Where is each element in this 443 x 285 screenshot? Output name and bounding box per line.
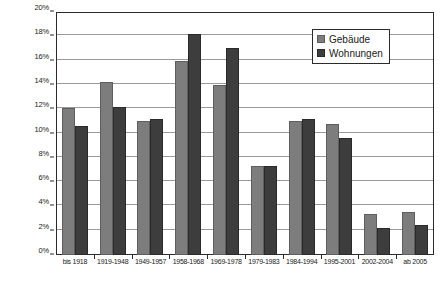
bar-gebaeude[interactable]	[62, 108, 75, 255]
x-axis-tick-mark	[245, 255, 246, 259]
x-axis-tick-mark	[283, 255, 284, 259]
x-axis-tick-mark	[207, 255, 208, 259]
bar-wohnungen[interactable]	[150, 119, 163, 255]
bar-wohnungen[interactable]	[377, 228, 390, 255]
wohnungen-swatch-icon	[317, 49, 325, 57]
x-axis-tick-label: 1995-2001	[321, 258, 359, 276]
bar-group	[94, 12, 132, 255]
y-axis-tick-label: 4%	[39, 197, 49, 206]
y-axis-tick-mark	[50, 132, 54, 133]
x-axis-tick-label: 1969-1978	[207, 258, 245, 276]
y-axis-tick-label: 18%	[35, 27, 49, 36]
legend-item-wohnungen[interactable]: Wohnungen	[317, 46, 383, 60]
bar-group	[169, 12, 207, 255]
bar-wohnungen[interactable]	[339, 138, 352, 255]
y-axis-tick-mark	[50, 181, 54, 182]
y-axis-tick-mark	[50, 156, 54, 157]
x-axis: bis 19181919-19481949-19571958-19681969-…	[56, 258, 434, 276]
y-axis-tick-mark	[50, 59, 54, 60]
y-axis-tick-mark	[50, 205, 54, 206]
x-axis-tick-mark	[94, 255, 95, 259]
bar-group	[396, 12, 434, 255]
bar-gebaeude[interactable]	[175, 61, 188, 255]
bar-wohnungen[interactable]	[302, 119, 315, 255]
x-axis-tick-label: 1919-1948	[94, 258, 132, 276]
y-axis-tick-label: 2%	[39, 221, 49, 230]
legend-label-wohnungen: Wohnungen	[329, 48, 383, 59]
y-axis-tick-label: 8%	[39, 148, 49, 157]
x-axis-tick-label: 2002-2004	[358, 258, 396, 276]
bar-group	[132, 12, 170, 255]
bar-gebaeude[interactable]	[402, 212, 415, 255]
x-axis-tick-mark	[396, 255, 397, 259]
x-axis-tick-mark	[358, 255, 359, 259]
y-axis-tick-label: 10%	[35, 124, 49, 133]
bar-wohnungen[interactable]	[75, 126, 88, 255]
y-axis-tick-mark	[50, 254, 54, 255]
bar-wohnungen[interactable]	[264, 166, 277, 255]
bar-gebaeude[interactable]	[326, 124, 339, 255]
x-axis-tick-label: 1979-1983	[245, 258, 283, 276]
bar-wohnungen[interactable]	[113, 107, 126, 255]
bar-group	[207, 12, 245, 255]
x-axis-tick-label: ab 2005	[396, 258, 434, 276]
x-axis-tick-label: 1949-1957	[132, 258, 170, 276]
bar-gebaeude[interactable]	[364, 214, 377, 255]
bar-chart: 0%2%4%6%8%10%12%14%16%18%20% bis 1918191…	[0, 0, 443, 285]
y-axis-tick-label: 16%	[35, 51, 49, 60]
chart-legend: Gebäude Wohnungen	[312, 29, 390, 64]
bar-gebaeude[interactable]	[137, 121, 150, 255]
x-axis-tick-label: 1958-1968	[169, 258, 207, 276]
x-axis-tick-mark	[169, 255, 170, 259]
y-axis-tick-label: 12%	[35, 100, 49, 109]
bar-group	[56, 12, 94, 255]
y-axis-tick-mark	[50, 11, 54, 12]
y-axis-tick-label: 20%	[35, 3, 49, 12]
y-axis-tick-mark	[50, 229, 54, 230]
legend-item-gebaeude[interactable]: Gebäude	[317, 32, 383, 46]
x-axis-tick-label: bis 1918	[56, 258, 94, 276]
y-axis-tick-mark	[50, 108, 54, 109]
y-axis-tick-mark	[50, 35, 54, 36]
x-axis-tick-mark	[132, 255, 133, 259]
bar-gebaeude[interactable]	[213, 85, 226, 255]
bar-wohnungen[interactable]	[415, 225, 428, 255]
bar-group	[245, 12, 283, 255]
bar-wohnungen[interactable]	[188, 34, 201, 255]
y-axis-tick-label: 0%	[39, 246, 49, 255]
bar-gebaeude[interactable]	[289, 121, 302, 255]
y-axis-tick-mark	[50, 83, 54, 84]
bar-wohnungen[interactable]	[226, 48, 239, 255]
gebaeude-swatch-icon	[317, 35, 325, 43]
x-axis-tick-label: 1984-1994	[283, 258, 321, 276]
legend-label-gebaeude: Gebäude	[329, 34, 370, 45]
bar-gebaeude[interactable]	[251, 166, 264, 255]
y-axis-tick-label: 6%	[39, 173, 49, 182]
x-axis-tick-mark	[321, 255, 322, 259]
y-axis: 0%2%4%6%8%10%12%14%16%18%20%	[0, 12, 54, 255]
bar-gebaeude[interactable]	[100, 82, 113, 255]
y-axis-tick-label: 14%	[35, 75, 49, 84]
